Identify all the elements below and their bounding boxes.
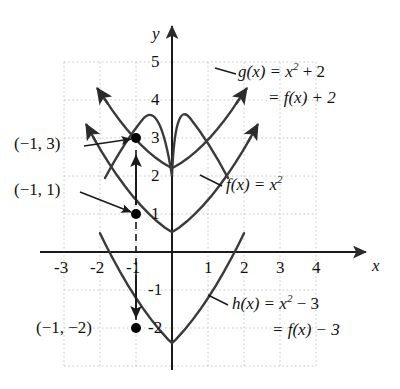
label-f-text: f(x) = x [226, 175, 277, 194]
x-tick-1: 1 [204, 258, 213, 278]
y-tick-3: 3 [151, 128, 160, 148]
label-h-text: h(x) = x [232, 294, 287, 313]
point-g-dot [131, 133, 141, 143]
curve-h-right-tail [232, 233, 244, 257]
y-tick-2: 2 [151, 166, 160, 186]
leader-point-f [80, 192, 131, 212]
label-g-tail: + 2 [298, 62, 325, 81]
label-f-line1: f(x) = x2 [226, 173, 283, 195]
y-tick-neg2: -2 [148, 318, 162, 338]
x-axis-label: x [372, 256, 380, 276]
label-h-line2: = f(x) − 3 [272, 320, 340, 340]
curve-h-left-tail [100, 233, 112, 257]
point-label-f: (−1, 1) [14, 180, 60, 200]
y-tick-4: 4 [151, 90, 160, 110]
y-tick-1: 1 [151, 204, 160, 224]
graph-figure: 5 4 3 2 1 -1 -2 -3 -2 -1 1 2 3 4 x y g(x… [0, 0, 400, 389]
y-tick-neg1: -1 [148, 280, 162, 300]
x-tick-4: 4 [312, 258, 321, 278]
x-tick-3: 3 [276, 258, 285, 278]
x-tick-neg1: -1 [126, 258, 140, 278]
label-g-line2: = f(x) + 2 [268, 88, 336, 108]
point-label-g: (−1, 3) [14, 134, 60, 154]
label-h-tail: − 3 [292, 294, 319, 313]
x-tick-neg2: -2 [90, 258, 104, 278]
curve-f-arrow-left [86, 124, 96, 142]
point-h-dot [131, 323, 141, 333]
leader-label-g [215, 68, 236, 74]
curve-g-arrow-left [97, 88, 108, 104]
point-label-h: (−1, −2) [36, 318, 92, 338]
label-g-line1: g(x) = x2 + 2 [238, 60, 325, 82]
leader-label-h [208, 295, 228, 305]
y-tick-5: 5 [151, 52, 160, 72]
leader-label-f [200, 175, 222, 186]
curve-f-arrow-right [248, 124, 258, 142]
label-f-exponent: 2 [277, 173, 283, 185]
x-tick-neg3: -3 [54, 258, 68, 278]
label-h-line1: h(x) = x2 − 3 [232, 292, 319, 314]
label-g-text: g(x) = x [238, 62, 293, 81]
point-f-dot [131, 209, 141, 219]
x-tick-2: 2 [240, 258, 249, 278]
curve-g-arrow-right [236, 88, 247, 104]
y-axis-label: y [152, 24, 160, 44]
